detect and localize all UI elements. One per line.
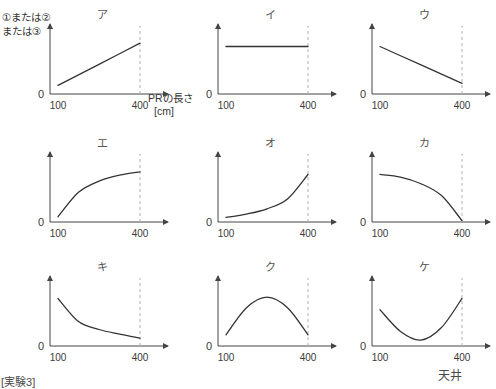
panel-e: エ0100400 <box>28 134 178 252</box>
curve <box>226 174 308 217</box>
panel-a: ア0100400 <box>28 6 178 124</box>
curve <box>58 43 140 85</box>
tick-label-100: 100 <box>218 100 235 111</box>
tick-label-400: 400 <box>132 352 149 363</box>
curve <box>380 298 462 340</box>
plot-area-6: 0100400 <box>350 148 496 252</box>
tick-label-100: 100 <box>372 352 389 363</box>
tick-label-100: 100 <box>50 100 67 111</box>
tick-label-400: 400 <box>132 100 149 111</box>
curve <box>58 298 140 338</box>
panel-ka: カ0100400 <box>350 134 496 252</box>
origin-label: 0 <box>38 340 44 352</box>
panel-i: イ0100400 <box>196 6 346 124</box>
origin-label: 0 <box>206 340 212 352</box>
plot-area-4: 0100400 <box>28 148 178 252</box>
tick-label-100: 100 <box>218 228 235 239</box>
origin-label: 0 <box>38 88 44 100</box>
curve <box>58 172 140 217</box>
tick-label-100: 100 <box>372 100 389 111</box>
plot-area-2: 0100400 <box>196 20 346 124</box>
panel-ki: キ0100400 <box>28 258 178 376</box>
origin-label: 0 <box>360 88 366 100</box>
tick-label-100: 100 <box>50 352 67 363</box>
plot-area-7: 0100400 <box>28 272 178 376</box>
panel-ke: ケ0100400 <box>350 258 496 376</box>
plot-area-5: 0100400 <box>196 148 346 252</box>
curve <box>226 297 308 335</box>
origin-label: 0 <box>206 216 212 228</box>
origin-label: 0 <box>206 88 212 100</box>
footer-left-text: [実験3] <box>1 373 35 389</box>
curve <box>380 174 462 220</box>
tick-label-400: 400 <box>454 352 471 363</box>
panel-ku: ク0100400 <box>196 258 346 376</box>
origin-label: 0 <box>360 340 366 352</box>
tick-label-100: 100 <box>218 352 235 363</box>
plot-area-3: 0100400 <box>350 20 496 124</box>
plot-area-9: 0100400 <box>350 272 496 376</box>
tick-label-400: 400 <box>454 100 471 111</box>
panel-u: ウ0100400 <box>350 6 496 124</box>
curve <box>380 46 462 83</box>
origin-label: 0 <box>38 216 44 228</box>
tick-label-400: 400 <box>300 228 317 239</box>
tick-label-100: 100 <box>50 228 67 239</box>
footer-right-text: 天井 <box>438 366 462 383</box>
tick-label-400: 400 <box>454 228 471 239</box>
tick-label-400: 400 <box>300 352 317 363</box>
panel-o: オ0100400 <box>196 134 346 252</box>
tick-label-400: 400 <box>300 100 317 111</box>
plot-area-8: 0100400 <box>196 272 346 376</box>
tick-label-400: 400 <box>132 228 149 239</box>
origin-label: 0 <box>360 216 366 228</box>
tick-label-100: 100 <box>372 228 389 239</box>
plot-area-1: 0100400 <box>28 20 178 124</box>
